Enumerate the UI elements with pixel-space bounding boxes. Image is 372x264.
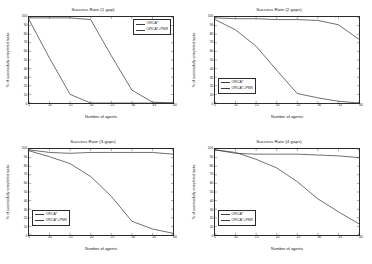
y-tick-label: 80 [210, 165, 214, 168]
x-tick-label: 40 [173, 236, 177, 239]
y-tick-label: 100 [22, 147, 28, 150]
y-tick-label: 10 [210, 226, 214, 229]
x-tick-label: 30 [131, 104, 135, 107]
y-tick-label: 20 [24, 218, 28, 221]
x-tick-label: 25 [111, 104, 115, 107]
legend-label: ORCA* [147, 22, 159, 26]
x-axis-label: Number of agents [214, 246, 360, 251]
chart-legend[interactable]: ORCA*ORCA*+PNR [32, 210, 70, 226]
y-tick-label: 70 [210, 174, 214, 177]
legend-line-icon [136, 30, 145, 31]
chart-panel: Success Rate (3 gaps) % of successfully … [0, 132, 186, 264]
y-axis-label: % of successfully completed tasks [4, 16, 13, 104]
x-tick-label: 35 [152, 236, 156, 239]
legend-line-icon [221, 82, 230, 83]
x-tick-label: 5 [28, 236, 30, 239]
y-tick-label: 30 [24, 209, 28, 212]
y-tick-label: 90 [210, 156, 214, 159]
y-tick-label: 30 [210, 77, 214, 80]
y-tick-label: 20 [210, 86, 214, 89]
y-tick-label: 100 [208, 147, 214, 150]
y-tick-label: 100 [208, 15, 214, 18]
legend-line-icon [35, 220, 44, 221]
x-axis-label: Number of agents [28, 114, 174, 119]
y-tick-label: 60 [210, 182, 214, 185]
x-axis-label: Number of agents [28, 246, 174, 251]
x-tick-label: 10 [234, 236, 238, 239]
y-tick-label: 50 [24, 191, 28, 194]
y-tick-label: 70 [24, 174, 28, 177]
x-tick-label: 40 [359, 104, 363, 107]
y-tick-label: 60 [210, 50, 214, 53]
y-tick-label: 30 [210, 209, 214, 212]
chart-panel: Success Rate (4 gaps) % of successfully … [186, 132, 372, 264]
legend-line-icon [221, 220, 230, 221]
y-tick-label: 60 [24, 182, 28, 185]
legend-label: ORCA*+PNR [147, 28, 168, 32]
legend-label: ORCA* [46, 213, 58, 217]
legend-label: ORCA*+PNR [232, 219, 253, 223]
series-line [29, 150, 173, 154]
x-tick-label: 10 [234, 104, 238, 107]
y-tick-label: 40 [24, 200, 28, 203]
y-tick-label: 90 [24, 24, 28, 27]
chart-title: Success Rate (2 gaps) [186, 7, 372, 12]
legend-label: ORCA*+PNR [46, 219, 67, 223]
series-line [215, 150, 359, 158]
y-tick-label: 20 [24, 86, 28, 89]
y-tick-label: 70 [24, 42, 28, 45]
figure-grid: Success Rate (1 gap) % of successfully c… [0, 0, 372, 264]
y-tick-label: 40 [210, 200, 214, 203]
chart-panel: Success Rate (1 gap) % of successfully c… [0, 0, 186, 132]
x-tick-label: 20 [276, 236, 280, 239]
y-tick-label: 30 [24, 77, 28, 80]
x-tick-label: 25 [297, 104, 301, 107]
legend-entry[interactable]: ORCA*+PNR [35, 218, 67, 224]
x-tick-label: 20 [90, 236, 94, 239]
legend-line-icon [221, 88, 230, 89]
y-tick-label: 10 [210, 94, 214, 97]
x-tick-label: 30 [131, 236, 135, 239]
y-tick-label: 60 [24, 50, 28, 53]
y-tick-label: 40 [24, 68, 28, 71]
panel-3-gaps: Success Rate (3 gaps) % of successfully … [0, 132, 186, 264]
x-tick-label: 25 [111, 236, 115, 239]
plot-area: 0102030405060708090100510152025303540ORC… [214, 148, 360, 236]
panel-4-gaps: Success Rate (4 gaps) % of successfully … [186, 132, 372, 264]
chart-legend[interactable]: ORCA*ORCA*+PNR [218, 210, 256, 226]
legend-line-icon [221, 214, 230, 215]
legend-entry[interactable]: ORCA*+PNR [136, 27, 168, 33]
chart-legend[interactable]: ORCA*ORCA*+PNR [133, 19, 171, 35]
y-tick-label: 20 [210, 218, 214, 221]
x-tick-label: 10 [48, 104, 52, 107]
legend-entry[interactable]: ORCA*+PNR [221, 86, 253, 92]
y-tick-label: 10 [24, 226, 28, 229]
series-line [215, 18, 359, 40]
x-tick-label: 5 [28, 104, 30, 107]
plot-area: 0102030405060708090100510152025303540ORC… [214, 16, 360, 104]
chart-title: Success Rate (4 gaps) [186, 139, 372, 144]
x-tick-label: 35 [338, 236, 342, 239]
chart-legend[interactable]: ORCA*ORCA*+PNR [218, 78, 256, 94]
x-tick-label: 20 [276, 104, 280, 107]
x-tick-label: 10 [48, 236, 52, 239]
x-axis-label: Number of agents [214, 114, 360, 119]
y-axis-label: % of successfully completed tasks [4, 148, 13, 236]
y-tick-label: 50 [24, 59, 28, 62]
plot-area: 0102030405060708090100510152025303540ORC… [28, 16, 174, 104]
legend-entry[interactable]: ORCA*+PNR [221, 218, 253, 224]
y-tick-label: 50 [210, 191, 214, 194]
y-axis-label: % of successfully completed tasks [190, 148, 199, 236]
panel-1-gap: Success Rate (1 gap) % of successfully c… [0, 0, 186, 132]
legend-label: ORCA*+PNR [232, 87, 253, 91]
plot-area: 0102030405060708090100510152025303540ORC… [28, 148, 174, 236]
y-tick-label: 100 [22, 15, 28, 18]
x-tick-label: 15 [255, 236, 259, 239]
y-tick-label: 10 [24, 94, 28, 97]
x-tick-label: 20 [90, 104, 94, 107]
y-tick-label: 90 [24, 156, 28, 159]
legend-line-icon [35, 214, 44, 215]
y-tick-label: 40 [210, 68, 214, 71]
chart-panel: Success Rate (2 gaps) % of successfully … [186, 0, 372, 132]
chart-title: Success Rate (1 gap) [0, 7, 186, 12]
